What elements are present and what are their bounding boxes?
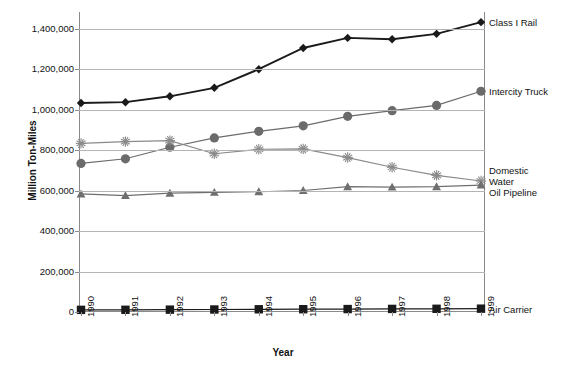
y-tick-mark (75, 150, 79, 151)
data-point-marker (477, 18, 485, 26)
series-label-line: Intercity Truck (489, 86, 548, 97)
data-point-marker (299, 121, 308, 130)
series-label-line: Domestic (489, 165, 529, 176)
y-tick-label: 400,000 (12, 226, 74, 236)
x-tick-mark (81, 312, 82, 316)
data-point-marker (166, 92, 174, 100)
data-point-marker (343, 112, 352, 121)
y-tick-label: 1,400,000 (12, 24, 74, 34)
data-point-marker (120, 136, 130, 146)
y-axis-tick-labels: 0200,000400,000600,000800,0001,000,0001,… (8, 0, 74, 370)
gridline (79, 272, 485, 273)
gridline (79, 231, 485, 232)
data-point-marker (387, 162, 397, 172)
series-label-domestic-water: DomesticWater (489, 165, 529, 187)
series-line (81, 91, 481, 163)
x-tick-label: 1996 (352, 296, 363, 317)
x-tick-mark (392, 312, 393, 316)
data-point-marker (388, 35, 396, 43)
series-label-line: Oil Pipeline (489, 187, 537, 198)
x-tick-label: 1990 (85, 296, 96, 317)
x-tick-label: 1991 (129, 296, 140, 317)
y-tick-label: 1,200,000 (12, 64, 74, 74)
x-tick-label: 1993 (218, 296, 229, 317)
data-point-marker (299, 44, 307, 52)
data-point-marker (342, 152, 352, 162)
x-tick-mark (125, 312, 126, 316)
y-tick-label: 1,000,000 (12, 105, 74, 115)
series-layer (79, 12, 485, 312)
x-tick-label: 1997 (396, 296, 407, 317)
x-tick-label: 1998 (441, 296, 452, 317)
data-point-marker (210, 133, 219, 142)
x-tick-mark (214, 312, 215, 316)
data-point-marker (431, 170, 441, 180)
y-tick-mark (75, 231, 79, 232)
x-tick-label: 1995 (307, 296, 318, 317)
y-tick-label: 800,000 (12, 145, 74, 155)
y-tick-mark (75, 272, 79, 273)
x-tick-label: 1992 (174, 296, 185, 317)
y-tick-mark (75, 29, 79, 30)
gridline (79, 150, 485, 151)
y-tick-mark (75, 69, 79, 70)
y-tick-mark (75, 312, 79, 313)
series-label-line: Water (489, 176, 529, 187)
gridline (79, 191, 485, 192)
data-point-marker (210, 84, 218, 92)
series-label-class-i-rail: Class I Rail (489, 17, 537, 28)
series-line (81, 141, 481, 181)
data-point-marker (76, 159, 85, 168)
gridline (79, 110, 485, 111)
data-point-marker (432, 101, 441, 110)
y-tick-mark (75, 191, 79, 192)
x-tick-mark (303, 312, 304, 316)
series-label-air-carrier: Air Carrier (489, 304, 532, 315)
y-tick-label: 600,000 (12, 186, 74, 196)
gridline (79, 29, 485, 30)
x-tick-mark (348, 312, 349, 316)
series-label-intercity-truck: Intercity Truck (489, 86, 548, 97)
series-label-oil-pipeline: Oil Pipeline (489, 187, 537, 198)
data-point-marker (121, 98, 129, 106)
x-tick-mark (170, 312, 171, 316)
data-point-marker (77, 99, 85, 107)
y-tick-label: 0 (12, 307, 74, 317)
x-tick-mark (437, 312, 438, 316)
x-tick-mark (481, 312, 482, 316)
data-point-marker (432, 30, 440, 38)
series-line (81, 309, 481, 310)
x-tick-mark (259, 312, 260, 316)
y-tick-label: 200,000 (12, 267, 74, 277)
chart-container: Million Ton-Miles 0200,000400,000600,000… (0, 0, 566, 370)
data-point-marker (254, 144, 264, 154)
data-point-marker (254, 127, 263, 136)
series-label-line: Class I Rail (489, 17, 537, 28)
data-point-marker (121, 154, 130, 163)
data-point-marker (165, 135, 175, 145)
gridline (79, 69, 485, 70)
series-label-line: Air Carrier (489, 304, 532, 315)
data-point-marker (343, 34, 351, 42)
y-tick-mark (75, 110, 79, 111)
data-point-marker (298, 144, 308, 154)
x-tick-label: 1994 (263, 296, 274, 317)
plot-area (79, 12, 485, 312)
data-point-marker (476, 87, 485, 96)
series-line (81, 22, 481, 103)
data-point-marker (76, 138, 86, 148)
x-axis-title: Year (0, 347, 566, 358)
